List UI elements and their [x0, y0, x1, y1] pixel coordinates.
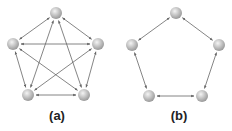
edge-b — [205, 53, 217, 89]
panel-label-a: (a) — [37, 108, 77, 123]
node-a-1 — [7, 38, 19, 50]
node-a-0 — [50, 7, 62, 19]
node-a-4 — [78, 89, 90, 101]
edge-a — [19, 18, 49, 40]
node-a-2 — [92, 38, 104, 50]
edge-a — [15, 52, 25, 88]
panel-label-b: (b) — [159, 108, 199, 123]
node-b-0 — [170, 7, 182, 19]
node-b-2 — [213, 39, 225, 51]
edge-a — [31, 21, 54, 88]
edge-a — [86, 52, 96, 88]
edge-a — [19, 49, 77, 91]
edge-a — [59, 21, 82, 88]
edge-a — [62, 18, 91, 39]
edge-b — [182, 18, 212, 40]
edge-b — [138, 18, 169, 41]
node-a-3 — [22, 89, 34, 101]
edge-b — [135, 53, 147, 89]
edge-a — [34, 49, 91, 91]
node-b-1 — [126, 39, 138, 51]
node-b-4 — [196, 90, 208, 102]
node-b-3 — [143, 90, 155, 102]
